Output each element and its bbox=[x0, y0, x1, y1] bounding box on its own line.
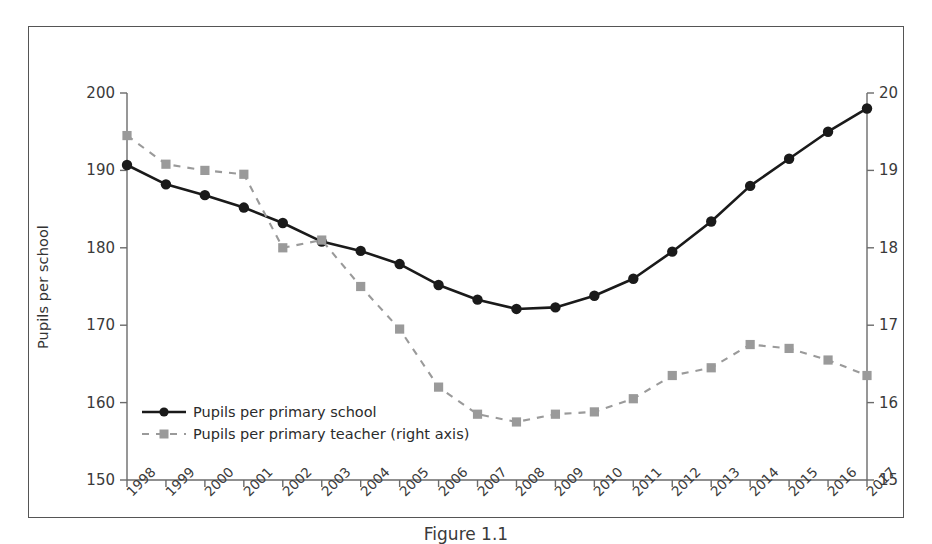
data-point-2015[interactable] bbox=[785, 344, 794, 353]
data-point-2016[interactable] bbox=[823, 127, 833, 137]
data-point-2007[interactable] bbox=[473, 410, 482, 419]
data-point-2017[interactable] bbox=[862, 371, 871, 380]
figure-container: Pupils per school Pupils per teacher 150… bbox=[0, 0, 932, 544]
data-point-1999[interactable] bbox=[161, 179, 171, 189]
data-point-2012[interactable] bbox=[667, 246, 677, 256]
legend-swatch-dashed-square bbox=[141, 427, 187, 441]
data-point-1999[interactable] bbox=[161, 160, 170, 169]
series-line bbox=[127, 108, 867, 308]
right-tick-label: 20 bbox=[879, 84, 898, 102]
data-point-2016[interactable] bbox=[823, 355, 832, 364]
legend-item-primary-teacher[interactable]: Pupils per primary teacher (right axis) bbox=[141, 423, 469, 445]
data-point-2000[interactable] bbox=[200, 166, 209, 175]
data-point-2011[interactable] bbox=[628, 274, 638, 284]
legend-swatch-solid-circle bbox=[141, 405, 187, 419]
data-point-2012[interactable] bbox=[668, 371, 677, 380]
left-tick-label: 200 bbox=[86, 84, 115, 102]
data-point-2007[interactable] bbox=[472, 294, 482, 304]
data-point-2013[interactable] bbox=[706, 216, 716, 226]
data-point-2002[interactable] bbox=[278, 243, 287, 252]
data-point-2005[interactable] bbox=[394, 259, 404, 269]
data-point-2009[interactable] bbox=[551, 410, 560, 419]
series-primary-teacher bbox=[122, 131, 871, 427]
data-point-2004[interactable] bbox=[355, 246, 365, 256]
data-point-2003[interactable] bbox=[317, 235, 326, 244]
data-point-2010[interactable] bbox=[590, 407, 599, 416]
data-point-2015[interactable] bbox=[784, 154, 794, 164]
data-point-2008[interactable] bbox=[511, 304, 521, 314]
data-point-2008[interactable] bbox=[512, 417, 521, 426]
series-primary-school bbox=[122, 103, 872, 314]
data-point-2010[interactable] bbox=[589, 291, 599, 301]
right-tick-label: 18 bbox=[879, 239, 898, 257]
data-point-2000[interactable] bbox=[200, 190, 210, 200]
data-point-2011[interactable] bbox=[629, 394, 638, 403]
data-point-2001[interactable] bbox=[239, 202, 249, 212]
series-layer bbox=[122, 103, 872, 426]
figure-frame: Pupils per school Pupils per teacher 150… bbox=[28, 26, 904, 518]
left-tick-label: 180 bbox=[86, 239, 115, 257]
right-tick-label: 16 bbox=[879, 394, 898, 412]
data-point-2004[interactable] bbox=[356, 282, 365, 291]
data-point-2014[interactable] bbox=[746, 340, 755, 349]
data-point-2009[interactable] bbox=[550, 302, 560, 312]
plot-area: Pupils per school Pupils per teacher 150… bbox=[127, 93, 867, 480]
data-point-2014[interactable] bbox=[745, 181, 755, 191]
data-point-2002[interactable] bbox=[278, 218, 288, 228]
left-axis-title: Pupils per school bbox=[35, 225, 51, 349]
data-point-2006[interactable] bbox=[434, 383, 443, 392]
data-point-2013[interactable] bbox=[707, 363, 716, 372]
left-tick-label: 170 bbox=[86, 316, 115, 334]
left-tick-label: 160 bbox=[86, 394, 115, 412]
data-point-2006[interactable] bbox=[433, 280, 443, 290]
data-point-1998[interactable] bbox=[122, 131, 131, 140]
data-point-2001[interactable] bbox=[239, 170, 248, 179]
figure-caption: Figure 1.1 bbox=[0, 524, 932, 544]
data-point-2017[interactable] bbox=[862, 103, 872, 113]
data-point-1998[interactable] bbox=[122, 160, 132, 170]
right-tick-label: 19 bbox=[879, 161, 898, 179]
legend-label-primary-teacher: Pupils per primary teacher (right axis) bbox=[193, 426, 469, 442]
chart-legend: Pupils per primary school Pupils per pri… bbox=[141, 401, 469, 445]
left-tick-label: 150 bbox=[86, 471, 115, 489]
left-tick-label: 190 bbox=[86, 161, 115, 179]
right-tick-label: 17 bbox=[879, 316, 898, 334]
right-axis-ticks bbox=[867, 93, 874, 480]
legend-label-primary-school: Pupils per primary school bbox=[193, 404, 377, 420]
data-point-2005[interactable] bbox=[395, 324, 404, 333]
left-axis-ticks bbox=[120, 93, 127, 480]
legend-item-primary-school[interactable]: Pupils per primary school bbox=[141, 401, 469, 423]
series-line bbox=[127, 136, 867, 422]
